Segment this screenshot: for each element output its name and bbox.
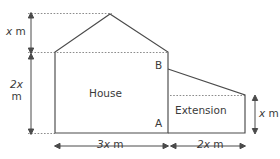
extension-width-value: 2x bbox=[197, 138, 210, 150]
house-width-arrow-left bbox=[55, 143, 61, 148]
extension-outline bbox=[168, 69, 245, 133]
label-roof-height: x m bbox=[6, 26, 26, 37]
label-house-width: 3x m bbox=[97, 139, 123, 150]
house-outline bbox=[55, 14, 168, 133]
label-extension-width: 2x m bbox=[197, 139, 223, 150]
dimension-wall-height bbox=[28, 54, 33, 135]
house-shape bbox=[55, 14, 168, 133]
wall-height-unit: m bbox=[11, 90, 21, 102]
house-extension-figure bbox=[0, 0, 280, 159]
wall-height-arrow-up bbox=[28, 54, 33, 60]
dimension-extension-height bbox=[252, 95, 257, 134]
extension-height-unit: m bbox=[269, 107, 279, 119]
label-wall-height: 2x m bbox=[6, 79, 27, 102]
label-point-b: B bbox=[155, 60, 162, 71]
label-house: House bbox=[89, 88, 122, 99]
diagram-canvas: x m 2x m x m 3x m 2x m House Extension B… bbox=[0, 0, 280, 159]
house-width-unit: m bbox=[113, 138, 123, 150]
extension-shape bbox=[168, 69, 245, 133]
label-extension: Extension bbox=[175, 105, 227, 116]
house-width-value: 3x bbox=[97, 138, 110, 150]
dimension-roof-height bbox=[28, 13, 33, 54]
extension-height-arrow-down bbox=[252, 129, 257, 135]
roof-height-unit: m bbox=[16, 25, 26, 37]
label-point-a: A bbox=[155, 118, 162, 129]
extension-width-unit: m bbox=[213, 138, 223, 150]
label-extension-height: x m bbox=[259, 108, 279, 119]
wall-height-value: 2x bbox=[10, 78, 23, 90]
house-width-arrow-right bbox=[163, 143, 169, 148]
extension-width-arrow-right bbox=[240, 143, 246, 148]
extension-width-arrow-left bbox=[171, 143, 177, 148]
extension-height-arrow-up bbox=[252, 95, 257, 101]
